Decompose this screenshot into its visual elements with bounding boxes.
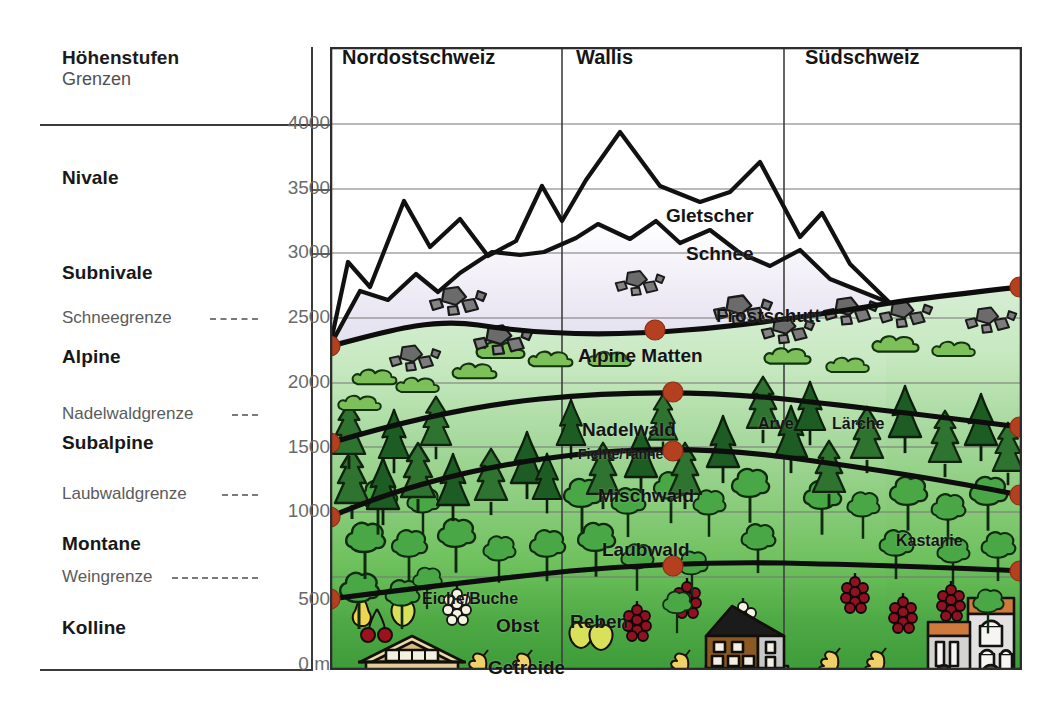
boundary-label-weingrenze: Weingrenze [62, 567, 152, 587]
y-tick-label-0: 0 m [268, 653, 330, 675]
annotation-mischwald: Mischwald [598, 485, 694, 507]
annotation-frostschutt: Frostschutt [716, 305, 821, 327]
annotation-obst: Obst [496, 615, 539, 637]
boundary-label-nadelwaldgrenze: Nadelwaldgrenze [62, 404, 193, 424]
boundary-dash-laubwaldgrenze [222, 494, 258, 496]
y-tick-3000 [313, 253, 330, 255]
chart-plate: Nordostschweiz Wallis Südschweiz [330, 47, 1022, 670]
annotation-reben: Reben [570, 611, 628, 633]
y-tick-label-2500: 2500 [268, 306, 330, 328]
legend-column: Höhenstufen Grenzen Nivale Subnivale Alp… [0, 0, 330, 707]
boundary-dash-nadelwaldgrenze [232, 414, 258, 416]
boundary-dot-laubwaldgrenze-mid [663, 441, 683, 461]
boundary-label-schneegrenze: Schneegrenze [62, 308, 172, 328]
hoehenstufen-diagram: Höhenstufen Grenzen Nivale Subnivale Alp… [0, 0, 1059, 707]
boundary-dash-weingrenze [172, 577, 258, 579]
legend-heading: Höhenstufen Grenzen [62, 47, 179, 91]
y-tick-label-3500: 3500 [268, 177, 330, 199]
y-axis-line [311, 47, 313, 671]
boundary-dot-nadelwaldgrenze-mid [663, 382, 683, 402]
y-tick-label-1000: 1000 [268, 500, 330, 522]
y-tick-label-2000: 2000 [268, 371, 330, 393]
zone-label-subalpine: Subalpine [62, 432, 154, 454]
annotation-alpine-matten: Alpine Matten [578, 345, 703, 367]
annotation-laerche: Lärche [832, 415, 884, 433]
page-title: Höhenstufen [62, 47, 179, 69]
zone-label-kolline: Kolline [62, 617, 126, 639]
y-tick-label-4000: 4000 [268, 112, 330, 134]
annotation-getreide: Getreide [488, 657, 565, 679]
annotation-fichte-tanne: Fichte/Tanne [578, 446, 663, 462]
boundary-dot-schneegrenze-mid [645, 320, 665, 340]
annotation-gletscher: Gletscher [666, 205, 754, 227]
annotation-kastanie: Kastanie [896, 532, 963, 550]
annotation-laubwald: Laubwald [602, 539, 690, 561]
annotation-schnee: Schnee [686, 243, 754, 265]
y-tick-3500 [313, 189, 330, 191]
zone-label-subnivale: Subnivale [62, 262, 153, 284]
y-tick-label-500: 500 [268, 588, 330, 610]
zone-label-alpine: Alpine [62, 346, 121, 368]
annotation-arve: Arve [758, 415, 794, 433]
boundary-label-laubwaldgrenze: Laubwaldgrenze [62, 484, 187, 504]
zone-label-montane: Montane [62, 533, 141, 555]
zone-label-nivale: Nivale [62, 167, 119, 189]
page-subtitle: Grenzen [62, 69, 179, 91]
annotation-eiche-buche: Eiche/Buche [422, 590, 518, 608]
annotation-nadelwald: Nadelwald [582, 419, 676, 441]
y-tick-label-3000: 3000 [268, 241, 330, 263]
y-tick-label-1500: 1500 [268, 436, 330, 458]
boundary-dash-schneegrenze [210, 318, 258, 320]
y-tick-4000 [313, 124, 330, 126]
